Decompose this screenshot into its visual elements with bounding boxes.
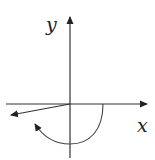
angle-diagram: y x [0, 0, 155, 160]
terminal-side-ray [11, 104, 70, 115]
y-axis-label: y [45, 13, 57, 35]
rotation-arc [35, 104, 103, 144]
x-axis-label: x [137, 114, 148, 136]
